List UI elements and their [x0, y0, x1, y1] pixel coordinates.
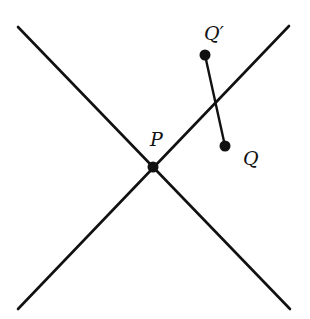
label-q-prime: Q′ [204, 22, 225, 44]
segment-q-qprime [205, 55, 225, 146]
diagram-canvas: P Q′ Q [0, 0, 310, 319]
point-q [220, 141, 231, 152]
point-p [148, 162, 159, 173]
label-p: P [149, 128, 164, 150]
label-q: Q [243, 147, 259, 169]
point-q-prime [200, 50, 211, 61]
